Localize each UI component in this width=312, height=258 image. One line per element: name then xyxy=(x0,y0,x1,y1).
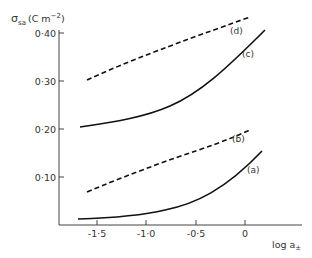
x-axis-title: log a± xyxy=(272,239,301,252)
curve-label-d: (d) xyxy=(230,26,243,36)
x-tick-label: 0 xyxy=(242,228,248,239)
x-ticks xyxy=(97,220,245,225)
y-tick-label: 0·30 xyxy=(35,76,56,87)
y-tick-label: 0·20 xyxy=(35,124,56,135)
y-axis-title: σsa(C m−2) xyxy=(11,12,65,27)
y-tick-label: 0·10 xyxy=(35,172,56,183)
curve-label-b: (b) xyxy=(232,134,245,144)
curve-label-a: (a) xyxy=(247,165,260,175)
y-ticks xyxy=(59,33,64,177)
x-tick-label: -1·0 xyxy=(137,228,156,239)
curve-d xyxy=(87,17,250,80)
x-tick-label: -0·5 xyxy=(187,228,206,239)
chart: 0·40 0·30 0·20 0·10 -1·5 -1·0 -0·5 0 σsa… xyxy=(0,0,312,258)
curve-label-c: (c) xyxy=(242,49,254,59)
y-tick-label: 0·40 xyxy=(35,28,56,39)
x-tick-label: -1·5 xyxy=(88,228,107,239)
